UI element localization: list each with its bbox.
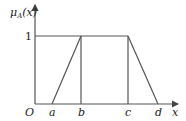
tick-c: c — [125, 106, 131, 119]
fall-edge — [128, 36, 158, 104]
x-axis-label: x — [172, 106, 179, 119]
membership-function-diagram: μA(x) 1 O a b c d x — [0, 0, 186, 121]
tick-d: d — [155, 106, 162, 119]
rise-edge — [52, 36, 81, 104]
tick-a: a — [49, 106, 56, 119]
y-axis-label: μA(x) — [10, 6, 37, 20]
level-one-label: 1 — [25, 30, 32, 43]
tick-b: b — [78, 106, 85, 119]
origin-label: O — [25, 106, 34, 119]
